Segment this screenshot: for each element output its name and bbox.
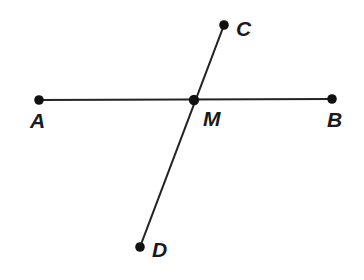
point-d-dot — [135, 242, 145, 252]
geometry-figure: A B C D M — [0, 0, 364, 280]
point-b-dot — [327, 94, 337, 104]
point-c-dot — [219, 20, 229, 30]
segment-ab-line — [39, 99, 332, 100]
point-b-label: B — [327, 109, 342, 130]
point-a-label: A — [30, 110, 45, 131]
point-d-label: D — [152, 239, 167, 260]
point-c-label: C — [236, 18, 251, 39]
figure-canvas — [0, 0, 364, 280]
point-m-dot — [189, 95, 199, 105]
point-m-label: M — [203, 108, 221, 129]
segment-cd-line — [140, 25, 224, 247]
point-a-dot — [34, 95, 44, 105]
